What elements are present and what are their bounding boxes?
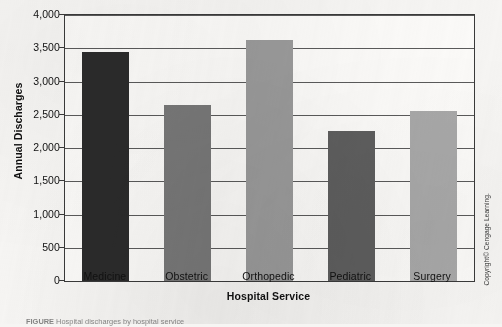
y-axis-tick-label: 1,000	[0, 208, 60, 220]
y-axis-tick-mark	[59, 147, 64, 148]
copyright-notice: Copyright© Cengage Learning.	[483, 166, 490, 286]
y-axis-tick-label: 4,000	[0, 8, 60, 20]
y-axis-tick-label: 2,000	[0, 141, 60, 153]
y-axis-tick-mark	[59, 280, 64, 281]
x-axis-tick-label: Pediatric	[329, 270, 371, 282]
bar-pediatric	[328, 131, 375, 281]
y-axis-tick-mark	[59, 14, 64, 15]
y-axis-tick-mark	[59, 180, 64, 181]
x-axis-title: Hospital Service	[64, 290, 473, 302]
y-axis-tick-mark	[59, 81, 64, 82]
bar-medicine	[82, 52, 129, 281]
bar-orthopedic	[246, 40, 293, 281]
y-axis-tick-label: 2,500	[0, 108, 60, 120]
x-axis-tick-label: Obstetric	[165, 270, 208, 282]
x-axis-tick-label: Orthopedic	[242, 270, 294, 282]
figure-caption-label: FIGURE	[26, 317, 54, 326]
x-axis-tick-label: Medicine	[83, 270, 126, 282]
plot-area	[64, 14, 475, 282]
y-axis-tick-mark	[59, 114, 64, 115]
y-axis-tick-label: 3,000	[0, 75, 60, 87]
y-axis-tick-mark	[59, 47, 64, 48]
y-axis-tick-label: 0	[0, 274, 60, 286]
figure-caption-text: Hospital discharges by hospital service	[54, 317, 184, 326]
y-axis-tick-label: 3,500	[0, 41, 60, 53]
figure-caption: FIGURE Hospital discharges by hospital s…	[26, 317, 476, 327]
bar-obstetric	[164, 105, 211, 281]
bar-surgery	[410, 111, 457, 281]
gridline	[65, 15, 474, 16]
y-axis-tick-mark	[59, 214, 64, 215]
y-axis-tick-label: 1,500	[0, 174, 60, 186]
y-axis-tick-label: 500	[0, 241, 60, 253]
y-axis-tick-mark	[59, 247, 64, 248]
x-axis-tick-label: Surgery	[413, 270, 450, 282]
